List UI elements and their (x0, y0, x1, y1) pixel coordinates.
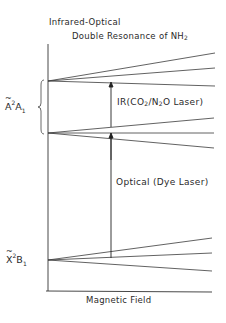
zeeman-branch-line (48, 260, 212, 271)
title-subscript: 2 (184, 34, 188, 41)
ir-transition-label: IR(CO2/N2O Laser) (117, 98, 203, 107)
upper-state-sup: 2 (12, 99, 16, 106)
ir-label-mid: /N (148, 97, 158, 107)
optical-transition-label: Optical (Dye Laser) (116, 178, 208, 187)
x-axis-label: Magnetic Field (86, 296, 151, 305)
title-line-2-text: Double Resonance of NH (72, 31, 184, 41)
lower-state-label: X2B1 (6, 255, 27, 265)
upper-state-sub: 1 (22, 107, 26, 114)
energy-level-diagram (0, 0, 226, 323)
title-line-1: Infrared-Optical (49, 18, 121, 27)
upper-state-letter: A (5, 102, 12, 112)
lower-state-sub: 1 (23, 260, 27, 267)
ir-label-suffix: O Laser) (163, 97, 203, 107)
zeeman-branch-line (48, 133, 214, 148)
ir-label-prefix: IR(CO (117, 97, 144, 107)
zeeman-branch-line (48, 81, 215, 86)
upper-state-label: A2A1 (5, 102, 26, 112)
title-line-2: Double Resonance of NH2 (72, 32, 188, 41)
curly-brace (38, 80, 44, 134)
lower-state-letter: X (6, 255, 13, 265)
state-brace (38, 80, 44, 134)
axes (46, 44, 212, 292)
lower-state-sup: 2 (13, 252, 17, 259)
zeeman-levels (48, 53, 215, 271)
zeeman-branch-line (48, 68, 215, 81)
zeeman-branch-line (48, 118, 214, 133)
x-axis-line (46, 291, 212, 292)
zeeman-branch-line (48, 53, 215, 81)
transition-arrows (109, 82, 113, 258)
